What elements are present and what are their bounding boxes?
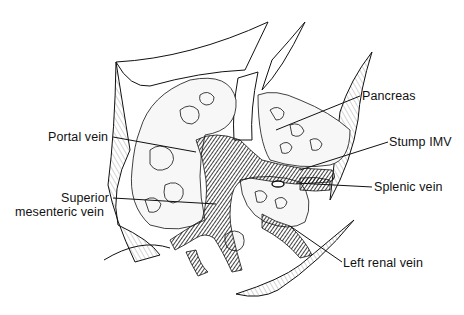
label-splenic-vein: Splenic vein <box>374 180 443 194</box>
label-portal-vein: Portal vein <box>48 130 108 144</box>
label-superior-mesenteric-vein-line2: mesenteric vein <box>15 205 104 219</box>
label-pancreas: Pancreas <box>362 89 416 103</box>
stump-imv-shape <box>272 181 284 187</box>
pancreas-tissue <box>258 92 350 166</box>
label-stump-imv: Stump IMV <box>389 135 452 149</box>
retractor-blade <box>234 72 259 140</box>
label-left-renal-vein: Left renal vein <box>343 256 423 270</box>
label-superior-mesenteric-vein-line1: Superior <box>61 191 109 205</box>
